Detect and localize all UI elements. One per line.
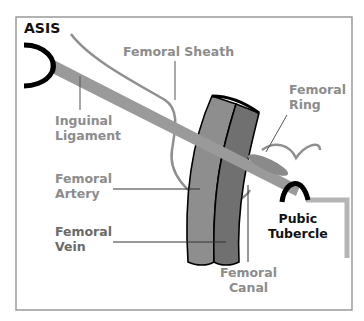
label-pubic-tubercle: Pubic Tubercle xyxy=(268,211,328,241)
label-asis: ASIS xyxy=(24,21,60,36)
label-inguinal-ligament-line2: Ligament xyxy=(55,128,121,143)
label-femoral-vein-line1: Femoral xyxy=(55,224,112,239)
label-femoral-artery-line1: Femoral xyxy=(55,171,112,186)
label-femoral-vein: Femoral Vein xyxy=(55,224,112,254)
label-femoral-canal-line2: Canal xyxy=(220,280,277,295)
label-femoral-canal: Femoral Canal xyxy=(220,265,277,295)
label-femoral-sheath: Femoral Sheath xyxy=(123,44,234,59)
label-inguinal-ligament-line1: Inguinal xyxy=(55,113,121,128)
label-pubic-tubercle-line1: Pubic xyxy=(268,211,328,226)
label-pubic-tubercle-line2: Tubercle xyxy=(268,226,328,241)
diagram-frame xyxy=(16,17,352,310)
label-inguinal-ligament: Inguinal Ligament xyxy=(55,113,121,143)
label-femoral-vein-line2: Vein xyxy=(55,239,112,254)
label-femoral-ring-line2: Ring xyxy=(289,97,346,112)
label-femoral-artery-line2: Artery xyxy=(55,186,112,201)
label-femoral-artery: Femoral Artery xyxy=(55,171,112,201)
label-femoral-ring: Femoral Ring xyxy=(289,82,346,112)
label-femoral-canal-line1: Femoral xyxy=(220,265,277,280)
label-femoral-ring-line1: Femoral xyxy=(289,82,346,97)
